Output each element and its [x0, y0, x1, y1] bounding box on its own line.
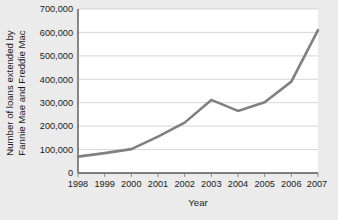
plot-area-background [78, 9, 318, 173]
ytick-label-200000: 200,000 [40, 121, 73, 131]
xtick-label-2004: 2004 [228, 179, 248, 189]
ytick-label-300000: 300,000 [40, 98, 73, 108]
xtick-label-2003: 2003 [201, 179, 221, 189]
ytick-label-100000: 100,000 [40, 145, 73, 155]
xtick-label-2002: 2002 [174, 179, 194, 189]
ytick-label-600000: 600,000 [40, 28, 73, 38]
chart-figure: 0 100,000 200,000 300,000 400,000 500,00… [0, 0, 338, 220]
xtick-label-2001: 2001 [148, 179, 168, 189]
xtick-label-2006: 2006 [281, 179, 301, 189]
xtick-label-2005: 2005 [254, 179, 274, 189]
xtick-label-1998: 1998 [68, 179, 88, 189]
y-axis-title-line2: Fannie Mae and Freddie Mac [16, 30, 27, 156]
ytick-label-500000: 500,000 [40, 51, 73, 61]
y-axis-title-line1: Number of loans extended by [4, 30, 15, 156]
x-axis-title: Year [188, 197, 208, 208]
xtick-label-2007: 2007 [307, 179, 327, 189]
ytick-label-700000: 700,000 [40, 4, 73, 14]
line-chart: 0 100,000 200,000 300,000 400,000 500,00… [0, 0, 338, 220]
xtick-label-1999: 1999 [94, 179, 114, 189]
xtick-label-2000: 2000 [121, 179, 141, 189]
ytick-label-0: 0 [68, 168, 73, 178]
ytick-label-400000: 400,000 [40, 75, 73, 85]
